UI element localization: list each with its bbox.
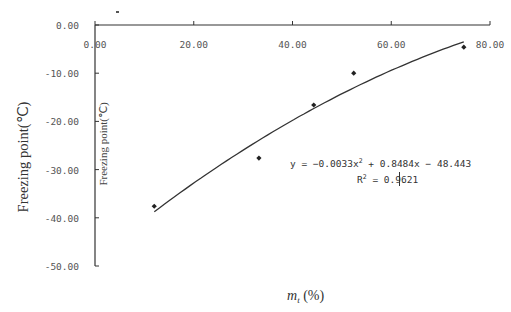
y-tick-label: -40.00 <box>45 213 80 224</box>
data-point <box>351 71 356 76</box>
y-axis-label-inner: Freezing point(℃) <box>97 102 110 186</box>
artifact-mark <box>116 11 119 13</box>
equation-prefix: y = −0.0033x <box>290 158 359 169</box>
y-axis-label: Freezing point(℃) <box>15 101 32 212</box>
x-axis-label-main: m <box>287 288 297 303</box>
axes <box>95 21 490 266</box>
trendline-equation: y = −0.0033x2 + 0.8484x − 48.443 <box>290 157 471 169</box>
equation-rest: + 0.8484x − 48.443 <box>363 158 472 169</box>
y-tick-label: -20.00 <box>45 116 80 127</box>
x-tick-label: 60.00 <box>377 39 406 50</box>
r2-rest: = 0.9621 <box>367 174 419 185</box>
text-cursor <box>399 172 400 186</box>
freezing-point-chart: 0.0020.0040.0060.0080.000.00-10.00-20.00… <box>0 0 511 312</box>
y-tick-label: -30.00 <box>45 165 80 176</box>
data-point <box>461 45 466 50</box>
x-tick-label: 40.00 <box>278 39 307 50</box>
data-point <box>152 204 157 209</box>
y-tick-label: 0.00 <box>56 20 79 31</box>
data-points <box>152 45 467 209</box>
data-point <box>311 102 316 107</box>
x-tick-label: 20.00 <box>179 39 208 50</box>
tick-labels: 0.0020.0040.0060.0080.000.00-10.00-20.00… <box>45 20 505 272</box>
data-point <box>256 155 261 160</box>
y-tick-label: -10.00 <box>45 68 80 79</box>
x-axis-label-suffix: (%) <box>300 288 325 304</box>
trendline <box>154 42 464 212</box>
y-tick-label: -50.00 <box>45 261 80 272</box>
x-tick-label: 0.00 <box>84 39 107 50</box>
x-axis-label: mt (%) <box>287 288 324 305</box>
x-tick-label: 80.00 <box>476 39 505 50</box>
r-squared: R2 = 0.9621 <box>357 173 418 185</box>
